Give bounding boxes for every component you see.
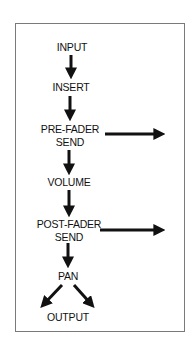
arrow-pan-output-right bbox=[74, 285, 91, 304]
arrow-pan-output-left bbox=[44, 285, 62, 304]
arrows-layer bbox=[0, 0, 195, 343]
